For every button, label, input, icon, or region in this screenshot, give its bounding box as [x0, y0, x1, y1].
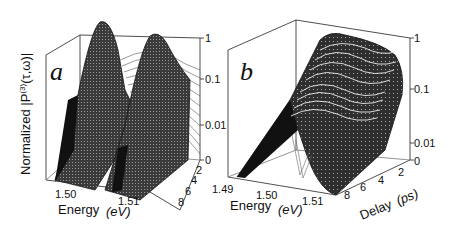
- panel-a-delay-tick: 6: [185, 185, 191, 197]
- panel-a-delay-tick: 4: [191, 174, 197, 186]
- panel-b-delay-tick: 8: [344, 189, 350, 201]
- panel-b-z-axis: 1 0.1 0.01 0: [410, 32, 435, 167]
- panel-b-delay-tick: 6: [360, 181, 366, 193]
- panel-b-z-tick: 0: [414, 155, 420, 167]
- svg-text:Delay(ps): Delay(ps): [358, 186, 421, 223]
- panel-a-letter: a: [50, 57, 63, 86]
- panel-b-ridge-front: [237, 100, 298, 178]
- panel-b-z-tick: 1: [414, 32, 420, 44]
- panel-a-delay-axis: 2 4 6 8: [178, 164, 202, 208]
- panel-a-z-tick: 1: [205, 32, 211, 44]
- panel-a-z-tick: 0.01: [205, 119, 226, 131]
- panel-b-letter: b: [240, 57, 253, 86]
- panel-a-z-label: Normalized |P(3)(τ,ω)|: [18, 53, 33, 175]
- panel-b: b 1 0.1 0.01 0 2 4 6 8 Delay(ps) 1.49 1.…: [212, 20, 435, 223]
- panel-b-ridge: [237, 33, 403, 195]
- panel-b-energy-unit: (eV): [278, 202, 303, 217]
- panel-a-energy-label: Energy: [58, 202, 100, 217]
- panel-b-energy-label: Energy: [230, 198, 272, 213]
- panel-a-delay-tick: 8: [178, 196, 184, 208]
- panel-a-z-axis: 1 0.1 0.01 0: [200, 32, 226, 166]
- panel-b-delay-tick: 2: [398, 166, 404, 178]
- panel-a-energy-unit: (eV): [106, 204, 131, 219]
- panel-b-energy-axis: 1.49 1.50 1.51 Energy (eV): [212, 183, 323, 217]
- svg-text:Normalized |P(3)(τ,ω)|: Normalized |P(3)(τ,ω)|: [18, 53, 33, 175]
- panel-a-energy-tick: 1.50: [55, 188, 76, 200]
- panel-b-z-tick: 0.1: [414, 83, 429, 95]
- panel-b-z-tick: 0.01: [414, 137, 435, 149]
- panel-a-z-tick: 0.1: [205, 73, 220, 85]
- panel-a: a 1 0.1 0.01 0 2 4 6 8 1.50 1.51 Energy …: [18, 22, 226, 219]
- panel-a-z-tick: 0: [205, 154, 211, 166]
- panel-b-energy-tick: 1.51: [302, 195, 323, 207]
- panel-b-delay-label: Delay(ps): [358, 186, 421, 223]
- figure: a 1 0.1 0.01 0 2 4 6 8 1.50 1.51 Energy …: [0, 0, 456, 229]
- panel-b-energy-tick: 1.49: [212, 183, 233, 195]
- panel-b-delay-tick: 4: [378, 174, 384, 186]
